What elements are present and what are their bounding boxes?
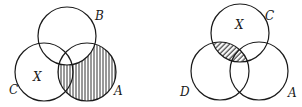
venn-diagrams: B X C A C X D A: [0, 0, 302, 107]
circle-a: [230, 42, 288, 100]
label-c: C: [9, 83, 18, 97]
label-a: A: [287, 86, 297, 100]
label-d: D: [179, 85, 190, 99]
venn-left: B X C A: [9, 7, 123, 105]
label-x: X: [234, 18, 244, 32]
label-x: X: [32, 70, 42, 84]
label-a: A: [113, 84, 123, 98]
label-c: C: [265, 9, 274, 23]
venn-right: C X D A: [179, 4, 297, 100]
label-b: B: [94, 9, 104, 23]
